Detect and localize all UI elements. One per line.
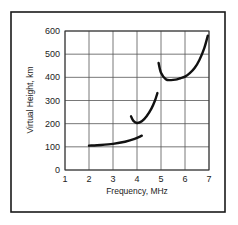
curve-trace-2 [131,93,157,123]
y-tick-label: 500 [45,49,60,59]
x-tick-label: 3 [110,174,115,184]
y-axis-label: Virtual Height, km [25,67,35,134]
y-tick-label: 300 [45,96,60,106]
y-tick-label: 600 [45,26,60,36]
x-axis-label: Frequency, MHz [106,186,168,196]
x-tick-label: 4 [134,174,139,184]
y-tick-label: 100 [45,142,60,152]
grid-lines [65,31,209,170]
y-tick-label: 200 [45,119,60,129]
x-axis-ticks: 1234567 [62,174,211,184]
data-curves [89,36,208,146]
y-axis-ticks: 0100200300400500600 [45,26,60,175]
y-tick-label: 0 [55,165,60,175]
x-tick-label: 6 [182,174,187,184]
ionogram-chart: 1234567 0100200300400500600 Frequency, M… [0,0,238,225]
x-tick-label: 2 [86,174,91,184]
x-tick-label: 1 [62,174,67,184]
curve-trace-1 [89,136,142,146]
curve-trace-3 [159,36,208,80]
y-tick-label: 400 [45,72,60,82]
chart-frame [11,12,225,212]
x-tick-label: 7 [206,174,211,184]
x-tick-label: 5 [158,174,163,184]
